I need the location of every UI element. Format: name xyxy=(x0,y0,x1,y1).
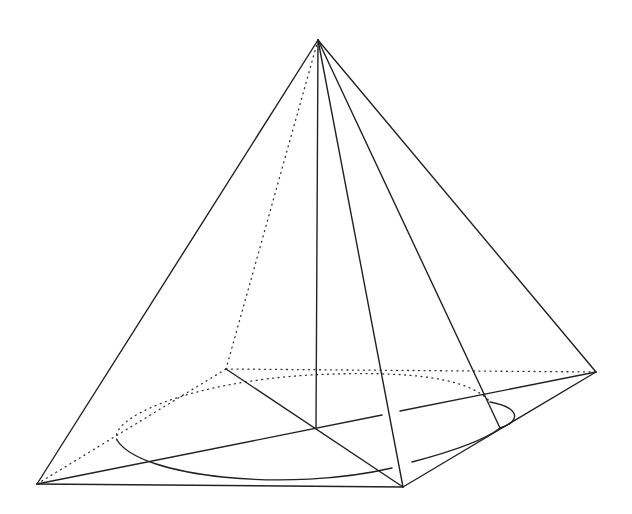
edge-apex-right xyxy=(318,40,596,372)
edge-left-front xyxy=(37,484,403,487)
diagonal-left-center xyxy=(37,415,382,484)
ellipse-front-arc-2 xyxy=(412,428,500,462)
edge-back-right xyxy=(226,369,596,372)
edge-apex-tangent xyxy=(318,40,500,428)
edge-apex-height xyxy=(316,40,318,428)
edge-left-back xyxy=(37,369,226,484)
visible-edges xyxy=(37,40,596,487)
diagonal-center-right xyxy=(400,372,596,411)
pyramid-diagram xyxy=(0,0,632,514)
edge-front-right xyxy=(403,372,596,487)
ellipse-hidden-arc xyxy=(116,374,490,440)
edge-apex-back xyxy=(226,40,318,369)
edge-apex-left xyxy=(37,40,318,484)
